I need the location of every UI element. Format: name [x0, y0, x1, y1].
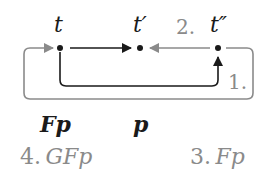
node-t-dot	[57, 45, 63, 51]
node-t1-label: t′	[133, 14, 147, 36]
node-t1-dot	[137, 45, 143, 51]
step-4-number: 4.	[20, 144, 41, 169]
step-4-formula: 4. GFp	[20, 146, 92, 168]
edge-t-to-t2	[60, 52, 218, 86]
step-4-text: GFp	[45, 144, 92, 169]
edge-label-2: 2.	[176, 16, 195, 38]
node-t-label: t	[54, 14, 63, 36]
formula-under-t1: p	[133, 113, 148, 135]
formula-under-t: Fp	[40, 113, 71, 135]
step-3-formula: 3. Fp	[190, 146, 245, 168]
step-3-number: 3.	[190, 144, 211, 169]
node-t2-dot	[215, 45, 221, 51]
edge-label-1: 1.	[228, 71, 247, 93]
step-3-text: Fp	[215, 144, 244, 169]
node-t2-label: t″	[210, 14, 227, 36]
